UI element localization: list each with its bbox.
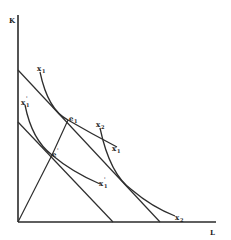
point-e-prime: e ' <box>52 147 59 159</box>
label-x1-end: x 1 <box>112 144 120 154</box>
label-x2-top: x 2 <box>96 120 105 130</box>
label-x1-prime-end: x ' 1 <box>99 176 107 189</box>
svg-text:1: 1 <box>42 68 45 74</box>
isoquant-x1 <box>40 72 117 147</box>
isoquant-x2 <box>100 128 175 216</box>
label-x2-end: x 2 <box>175 213 184 223</box>
svg-text:': ' <box>26 95 28 101</box>
y-axis-label: K <box>9 16 16 25</box>
svg-text:': ' <box>104 176 106 182</box>
isocost-line-outer <box>18 70 160 222</box>
svg-text:1: 1 <box>104 183 107 189</box>
svg-text:1: 1 <box>74 118 77 124</box>
label-x1-top: x 1 <box>37 64 45 74</box>
svg-text:2: 2 <box>180 217 184 223</box>
svg-text:2: 2 <box>101 124 105 130</box>
point-e1: e 1 <box>69 114 77 124</box>
expansion-path-ray <box>18 120 68 222</box>
svg-text:1: 1 <box>26 102 29 108</box>
x-axis-label: L <box>210 228 215 237</box>
svg-text:': ' <box>57 147 59 153</box>
label-x1-prime-top: x ' 1 <box>21 95 29 108</box>
isoquant-diagram: K L x 1 x 2 x ' 1 x 1 x 2 x ' 1 e 1 <box>0 0 231 240</box>
svg-text:1: 1 <box>117 148 120 154</box>
